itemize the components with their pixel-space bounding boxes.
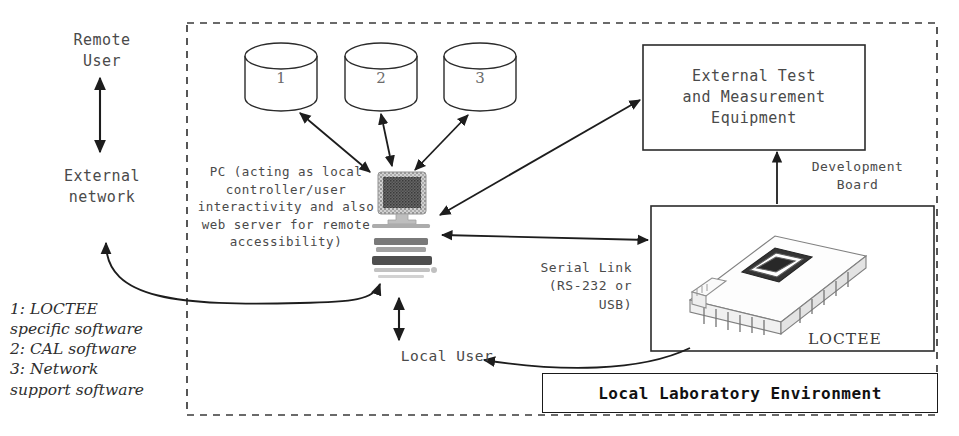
arrow-pc-test-equipment: [440, 100, 640, 215]
arrow-pc-db2: [381, 114, 392, 166]
database-cylinder-1-label: 1: [269, 69, 293, 87]
database-cylinder-2-label: 2: [369, 69, 393, 87]
development-board-box: [651, 206, 934, 351]
pc-caption: PC (acting as local controller/user inte…: [196, 163, 376, 251]
lab-environment-title-box: Local Laboratory Environment: [542, 373, 938, 413]
etme-line-1: External Test: [683, 66, 826, 87]
arrow-network-pc-curve: [106, 243, 380, 304]
external-test-equipment-label: External Test and Measurement Equipment: [643, 45, 865, 150]
local-user-label: Local User: [372, 346, 522, 366]
software-legend: 1: LOCTEE specific software 2: CAL softw…: [10, 299, 182, 400]
lab-environment-title: Local Laboratory Environment: [598, 384, 882, 403]
development-board-label: Development Board: [770, 158, 945, 194]
database-cylinder-3-label: 3: [468, 69, 492, 87]
external-network-label: External network: [22, 166, 182, 207]
arrow-pc-db3: [415, 115, 468, 170]
etme-line-2: and Measurement: [683, 87, 826, 108]
arrow-pc-development-board: [442, 235, 648, 240]
serial-link-label: Serial Link (RS-232 or USB): [492, 259, 632, 314]
loctee-board-label: LOCTEE: [808, 330, 882, 348]
development-board-illustration: [690, 236, 866, 335]
remote-user-label: Remote User: [22, 30, 182, 71]
desktop-computer-illustration: [372, 172, 437, 278]
etme-line-3: Equipment: [683, 108, 826, 129]
diagram-canvas: Remote User External network 1: LOCTEE s…: [0, 0, 959, 436]
